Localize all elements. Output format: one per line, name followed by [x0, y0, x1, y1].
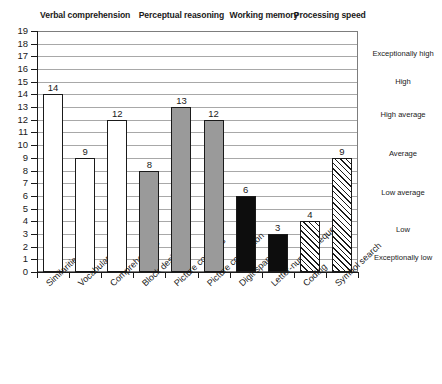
gridline	[38, 56, 357, 57]
y-axis-tick-label: 16	[4, 64, 28, 74]
y-axis-tick	[31, 120, 37, 121]
x-axis-tick	[294, 273, 295, 278]
y-axis-tick-label: 11	[4, 127, 28, 137]
y-axis-tick	[31, 209, 37, 210]
gridline	[38, 94, 357, 95]
bar-value-label: 13	[165, 95, 197, 106]
classification-band-label: High	[366, 77, 440, 86]
x-axis-tick	[358, 273, 359, 278]
classification-band-label: Low average	[366, 188, 440, 197]
x-axis-tick	[262, 273, 263, 278]
bar-value-label: 9	[69, 146, 101, 157]
y-axis-tick	[31, 69, 37, 70]
group-header-label: Working memory	[230, 10, 294, 20]
y-axis-tick	[31, 234, 37, 235]
x-axis-tick	[101, 273, 102, 278]
y-axis-tick-label: 0	[4, 267, 28, 277]
bar-value-label: 4	[294, 209, 326, 220]
bar[interactable]	[236, 196, 256, 272]
group-header-label: Processing speed	[294, 10, 358, 20]
y-axis-tick-label: 17	[4, 51, 28, 61]
x-axis-tick	[198, 273, 199, 278]
group-header-label: Verbal comprehension	[37, 10, 133, 20]
y-axis-tick-label: 12	[4, 115, 28, 125]
y-axis-tick-label: 18	[4, 39, 28, 49]
y-axis-tick-label: 8	[4, 166, 28, 176]
y-axis-tick	[31, 44, 37, 45]
y-axis-tick-label: 7	[4, 178, 28, 188]
gridline	[38, 132, 357, 133]
classification-band-label: Low	[366, 225, 440, 234]
y-axis-tick-label: 3	[4, 229, 28, 239]
y-axis-tick	[31, 221, 37, 222]
y-axis-tick-label: 19	[4, 26, 28, 36]
bar-value-label: 9	[326, 146, 358, 157]
wisc-subtest-scaled-score-chart: Verbal comprehensionPerceptual reasoning…	[0, 0, 442, 384]
y-axis-tick-label: 14	[4, 89, 28, 99]
y-axis-tick-label: 2	[4, 242, 28, 252]
bar-value-label: 12	[198, 108, 230, 119]
y-axis-tick-label: 4	[4, 216, 28, 226]
bar[interactable]	[75, 158, 95, 272]
bar[interactable]	[43, 94, 63, 272]
bar-value-label: 3	[262, 222, 294, 233]
y-axis-tick-label: 9	[4, 153, 28, 163]
bar[interactable]	[204, 120, 224, 272]
classification-band-label: Exceptionally low	[366, 253, 440, 262]
x-axis-tick	[230, 273, 231, 278]
y-axis-tick-label: 10	[4, 140, 28, 150]
y-axis-tick-label: 5	[4, 204, 28, 214]
gridline	[38, 82, 357, 83]
y-axis-tick-label: 6	[4, 191, 28, 201]
y-axis-tick	[31, 196, 37, 197]
x-axis-tick	[165, 273, 166, 278]
classification-band-label: High average	[366, 110, 440, 119]
gridline	[38, 120, 357, 121]
y-axis-tick	[31, 145, 37, 146]
x-axis-tick	[37, 273, 38, 278]
x-axis-tick	[326, 273, 327, 278]
y-axis-tick	[31, 158, 37, 159]
y-axis-tick	[31, 183, 37, 184]
bar-value-label: 8	[133, 159, 165, 170]
bar-value-label: 6	[230, 184, 262, 195]
bar[interactable]	[139, 171, 159, 272]
y-axis-tick-label: 1	[4, 254, 28, 264]
bar[interactable]	[332, 158, 352, 272]
y-axis-tick	[31, 171, 37, 172]
y-axis-tick-label: 15	[4, 77, 28, 87]
y-axis-tick	[31, 259, 37, 260]
bar[interactable]	[107, 120, 127, 272]
bar-value-label: 14	[37, 82, 69, 93]
y-axis-tick-label: 13	[4, 102, 28, 112]
y-axis-tick	[31, 107, 37, 108]
y-axis-tick	[31, 56, 37, 57]
y-axis-tick	[31, 94, 37, 95]
bar[interactable]	[171, 107, 191, 272]
gridline	[38, 44, 357, 45]
y-axis-tick	[31, 31, 37, 32]
gridline	[38, 69, 357, 70]
x-axis-tick	[69, 273, 70, 278]
bar-value-label: 12	[101, 108, 133, 119]
classification-band-label: Average	[366, 149, 440, 158]
y-axis-tick	[31, 132, 37, 133]
group-header-row: Verbal comprehensionPerceptual reasoning…	[37, 10, 359, 26]
classification-band-label: Exceptionally high	[366, 49, 440, 58]
y-axis-line	[37, 31, 38, 273]
y-axis-tick	[31, 247, 37, 248]
x-axis-tick	[133, 273, 134, 278]
group-header-label: Perceptual reasoning	[133, 10, 229, 20]
